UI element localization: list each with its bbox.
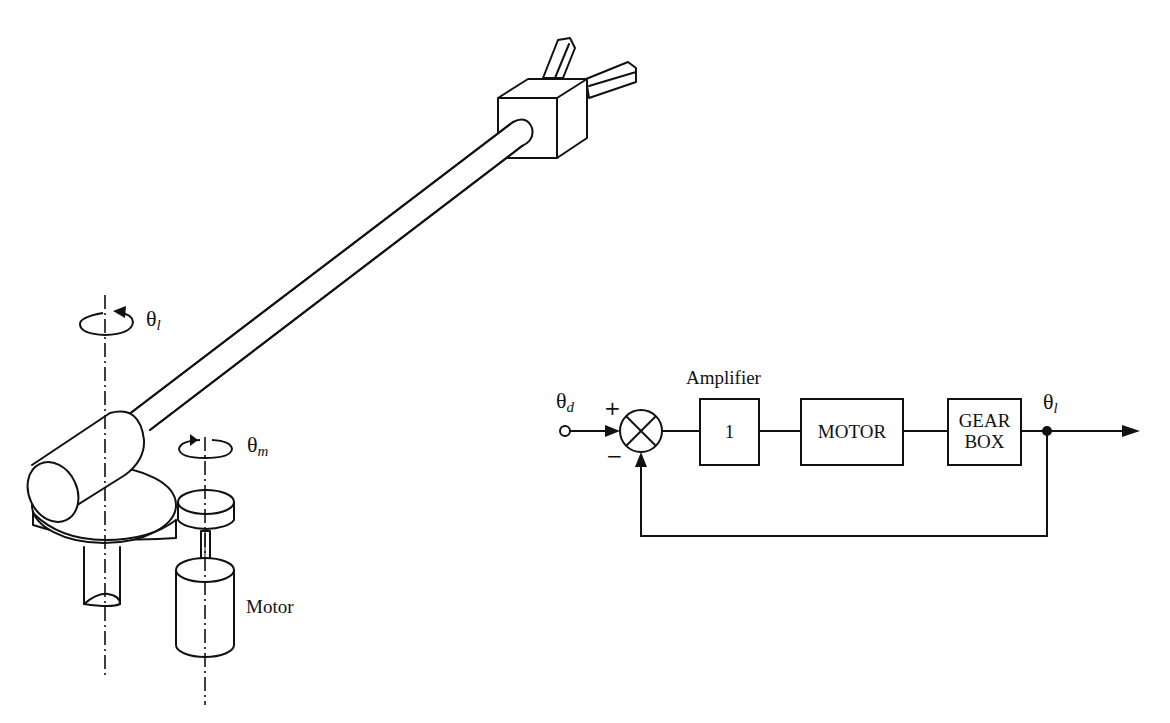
feedback-arrowhead-icon	[635, 452, 647, 467]
amplifier-gain-text: 1	[700, 399, 759, 465]
output-signal-label: θl	[1043, 391, 1058, 416]
output-arrowhead-icon	[1122, 425, 1140, 437]
input-arrowhead-icon	[605, 425, 620, 437]
summing-junction-icon	[620, 410, 662, 452]
block-diagram	[0, 0, 1170, 723]
motor-block-text: MOTOR	[801, 399, 903, 465]
minus-sign: −	[606, 446, 623, 466]
input-terminal	[560, 426, 570, 436]
figure-canvas: θl θm Motor	[0, 0, 1170, 723]
input-signal-label: θd	[556, 390, 574, 415]
pickoff-point	[1042, 426, 1052, 436]
plus-sign: +	[604, 398, 621, 418]
gearbox-block-text: GEAR BOX	[948, 399, 1021, 465]
amplifier-label: Amplifier	[686, 368, 761, 387]
